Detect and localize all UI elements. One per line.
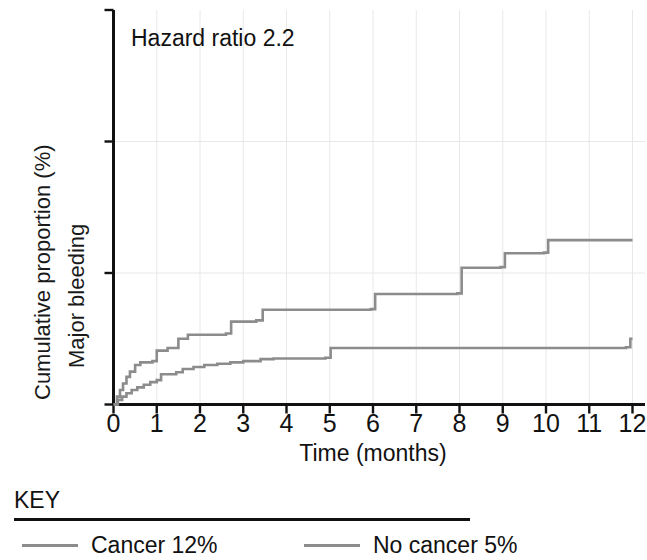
x-tick-label: 7 bbox=[396, 411, 436, 436]
key-label-no-cancer: No cancer 5% bbox=[373, 532, 517, 559]
key-item-no-cancer: No cancer 5% bbox=[304, 529, 517, 560]
x-tick-label: 0 bbox=[94, 411, 134, 436]
x-tick-label: 6 bbox=[353, 411, 393, 436]
figure-container: Cumulative proportion (%) Major bleeding… bbox=[0, 0, 647, 560]
x-tick-label: 2 bbox=[180, 411, 220, 436]
x-tick-label: 11 bbox=[569, 411, 609, 436]
x-axis-title: Time (months) bbox=[113, 440, 633, 467]
x-tick-label: 9 bbox=[483, 411, 523, 436]
hazard-ratio-annotation: Hazard ratio 2.2 bbox=[131, 25, 295, 52]
x-tick-label-group: 0123456789101112 bbox=[0, 0, 647, 445]
x-tick-label: 5 bbox=[310, 411, 350, 436]
x-tick-label: 1 bbox=[137, 411, 177, 436]
key-items-row: Cancer 12% No cancer 5% bbox=[14, 529, 634, 560]
key-label-cancer: Cancer 12% bbox=[91, 532, 218, 559]
x-tick-label: 4 bbox=[267, 411, 307, 436]
key-legend: KEY Cancer 12% No cancer 5% bbox=[14, 487, 634, 560]
key-title: KEY bbox=[14, 487, 60, 514]
x-tick-label: 3 bbox=[223, 411, 263, 436]
x-tick-label: 8 bbox=[440, 411, 480, 436]
key-swatch-cancer-icon bbox=[22, 544, 78, 547]
x-tick-label: 10 bbox=[526, 411, 566, 436]
plot-area: Cumulative proportion (%) Major bleeding… bbox=[0, 0, 647, 445]
key-swatch-no-cancer-icon bbox=[304, 544, 360, 547]
key-divider bbox=[14, 518, 470, 521]
key-item-cancer: Cancer 12% bbox=[22, 529, 218, 560]
x-tick-label: 12 bbox=[613, 411, 647, 436]
